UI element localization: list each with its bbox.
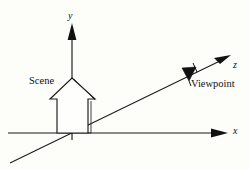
diagram-canvas: y x z Scene Viewpoint xyxy=(0,0,250,170)
x-axis-label: x xyxy=(233,126,237,136)
x-axis-group xyxy=(8,129,228,138)
y-axis-arrowhead xyxy=(68,23,77,40)
x-axis-arrowhead xyxy=(211,129,228,138)
z-axis-group xyxy=(10,55,231,163)
scene-label: Scene xyxy=(29,76,54,87)
scene-object-shape xyxy=(50,78,95,133)
y-axis-label: y xyxy=(68,11,72,21)
scene-house-outline xyxy=(50,78,95,133)
z-axis-label: z xyxy=(233,60,237,70)
viewpoint-label: Viewpoint xyxy=(191,79,235,90)
